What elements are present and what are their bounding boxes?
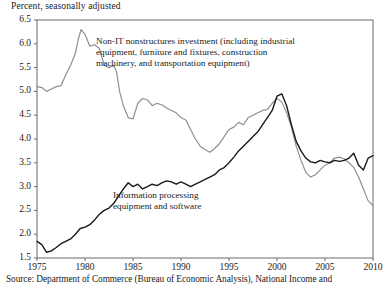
series-line-it — [37, 94, 373, 253]
y-tick-label: 4.5 — [5, 109, 31, 119]
y-tick-label: 1.5 — [5, 252, 31, 262]
x-tick-label: 1990 — [161, 262, 201, 272]
y-tick-label: 5.0 — [5, 85, 31, 95]
annotation-non-it: Non-IT nonstructures investment (includi… — [96, 36, 295, 70]
annotation-it-line-2: equipment and software — [113, 201, 201, 212]
annotation-non-it-line-3: machinery, and transportation equipment) — [96, 58, 295, 69]
y-tick-label: 4.0 — [5, 133, 31, 143]
source-note: Source: Department of Commerce (Bureau o… — [6, 274, 332, 284]
x-tick-label: 1995 — [209, 262, 249, 272]
y-tick-label: 6.5 — [5, 14, 31, 24]
y-tick-label: 6.0 — [5, 38, 31, 48]
y-tick-label: 3.0 — [5, 181, 31, 191]
x-tick-label: 1985 — [113, 262, 153, 272]
annotation-non-it-line-1: Non-IT nonstructures investment (includi… — [96, 36, 295, 47]
x-tick-label: 1975 — [17, 262, 57, 272]
annotation-it: Information processing equipment and sof… — [113, 190, 201, 212]
chart-figure: Percent, seasonally adjusted 1.52.02.53.… — [0, 0, 385, 289]
x-tick-label: 2000 — [257, 262, 297, 272]
x-tick-label: 1980 — [65, 262, 105, 272]
x-tick-label: 2010 — [353, 262, 385, 272]
y-tick-label: 3.5 — [5, 157, 31, 167]
x-tick-label: 2005 — [305, 262, 345, 272]
annotation-it-line-1: Information processing — [113, 190, 201, 201]
y-tick-label: 5.5 — [5, 62, 31, 72]
annotation-non-it-line-2: equipment, furniture and fixtures, const… — [96, 47, 295, 58]
y-tick-label: 2.5 — [5, 204, 31, 214]
y-tick-label: 2.0 — [5, 228, 31, 238]
